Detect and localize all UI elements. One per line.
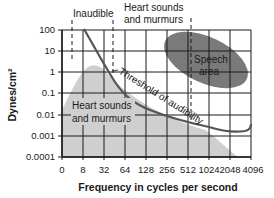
chart: Threshold of audibility Inaudible Heart … bbox=[0, 0, 274, 198]
svg-text:1: 1 bbox=[50, 66, 55, 77]
svg-text:1024: 1024 bbox=[198, 164, 219, 175]
svg-text:0.001: 0.001 bbox=[31, 130, 55, 141]
svg-text:512: 512 bbox=[180, 164, 196, 175]
area-heart-label-2: and murmurs bbox=[72, 113, 131, 124]
inaudible-label: Inaudible bbox=[73, 8, 114, 19]
y-axis-ticks: 100 10 1 0.1 0.01 0.001 0.0001 bbox=[26, 24, 55, 162]
x-axis-ticks: 0 8 32 64 128 256 512 1024 2048 4096 bbox=[59, 164, 263, 175]
y-axis-title: Dynes/cm² bbox=[6, 68, 18, 122]
top-heart-label-2: and murmurs bbox=[124, 14, 183, 25]
svg-text:0.0001: 0.0001 bbox=[26, 151, 55, 162]
speech-label-1: Speech bbox=[194, 54, 228, 65]
svg-text:0.01: 0.01 bbox=[37, 109, 56, 120]
svg-text:64: 64 bbox=[120, 164, 131, 175]
svg-text:0: 0 bbox=[59, 164, 64, 175]
svg-text:128: 128 bbox=[138, 164, 154, 175]
svg-text:10: 10 bbox=[44, 45, 55, 56]
svg-text:8: 8 bbox=[80, 164, 85, 175]
svg-text:0.1: 0.1 bbox=[42, 87, 55, 98]
svg-text:256: 256 bbox=[159, 164, 175, 175]
x-axis-title: Frequency in cycles per second bbox=[78, 181, 237, 193]
speech-label-2: area bbox=[199, 66, 219, 77]
svg-text:2048: 2048 bbox=[219, 164, 240, 175]
area-heart-label-1: Heart sounds bbox=[72, 100, 131, 111]
svg-text:32: 32 bbox=[99, 164, 110, 175]
top-heart-label-1: Heart sounds bbox=[124, 2, 183, 13]
svg-text:100: 100 bbox=[39, 24, 55, 35]
svg-text:4096: 4096 bbox=[242, 164, 263, 175]
